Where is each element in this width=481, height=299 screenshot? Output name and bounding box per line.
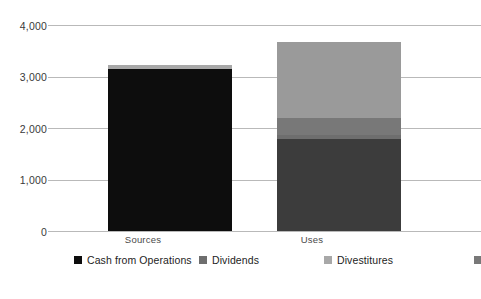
segment-share-repurchases[interactable] (277, 42, 401, 118)
segment-capital-expenses[interactable] (277, 139, 401, 231)
segment-acquisitions[interactable] (277, 118, 401, 135)
chart-legend: Cash from Operations Dividends Divestitu… (74, 252, 474, 268)
legend-item-label: Cash from Operations (87, 254, 192, 266)
y-axis-label-2000: 2,000 (1, 123, 47, 135)
y-axis-label-1000: 1,000 (1, 174, 47, 186)
legend-swatch-icon (74, 256, 82, 264)
bar-sources[interactable] (108, 65, 232, 231)
legend-item-label: Dividends (212, 254, 259, 266)
segment-dividends[interactable] (277, 135, 401, 140)
gridline-0 (54, 231, 481, 232)
y-axis-label-4000: 4,000 (1, 20, 47, 32)
legend-item-acquisitions[interactable]: Acquisitions (474, 254, 481, 266)
gridline-4000 (54, 25, 481, 26)
x-axis-label-sources: Sources (54, 234, 232, 245)
stacked-bar-chart: 4,000 3,000 2,000 1,000 0 Sources Uses (0, 0, 481, 299)
legend-item-cash-from-operations[interactable]: Cash from Operations (74, 254, 199, 266)
segment-divestitures[interactable] (108, 65, 232, 69)
legend-item-label: Divestitures (337, 254, 393, 266)
x-axis-label-uses: Uses (223, 234, 401, 245)
y-axis-label-3000: 3,000 (1, 71, 47, 83)
bar-uses[interactable] (277, 42, 401, 231)
legend-swatch-icon (199, 256, 207, 264)
y-axis-label-0: 0 (1, 226, 47, 238)
legend-item-divestitures[interactable]: Divestitures (324, 254, 474, 266)
legend-item-dividends[interactable]: Dividends (199, 254, 324, 266)
legend-swatch-icon (474, 256, 481, 264)
plot-area (54, 25, 481, 231)
segment-cash-from-operations[interactable] (108, 69, 232, 231)
legend-swatch-icon (324, 256, 332, 264)
